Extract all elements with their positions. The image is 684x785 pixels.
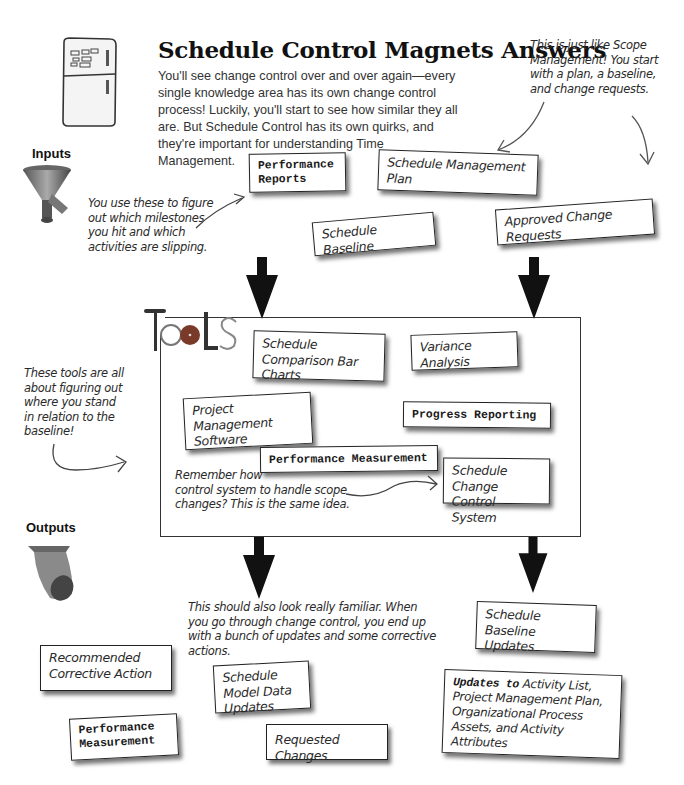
outputs-note: This should also look really familiar. W… <box>188 600 436 658</box>
magnet-project-management-software[interactable]: Project Management Software <box>183 392 314 451</box>
outputs-label: Outputs <box>26 520 76 535</box>
magnet-performance-measurement-output[interactable]: Performance Measurement <box>69 713 179 761</box>
scope-management-note: This is just like Scope Management! You … <box>530 38 678 96</box>
magnet-variance-analysis[interactable]: Variance Analysis <box>410 331 518 371</box>
magnet-schedule-comparison-bar-charts[interactable]: Schedule Comparison Bar Charts <box>252 330 385 381</box>
magnet-approved-change-requests[interactable]: Approved Change Requests <box>495 199 655 246</box>
change-control-note: Remember how control system to handle sc… <box>175 468 355 512</box>
refrigerator-magnets-icon <box>58 36 120 128</box>
arrow-down-icon <box>517 537 549 593</box>
magnet-updates-to[interactable]: Updates to Activity List, Project Manage… <box>442 669 623 759</box>
magnet-recommended-corrective-action[interactable]: Recommended Corrective Action <box>40 645 172 691</box>
tools-logo-icon: Tools <box>142 306 242 354</box>
magnet-schedule-baseline-updates[interactable]: Schedule Baseline Updates <box>475 601 597 653</box>
magnet-schedule-model-data-updates[interactable]: Schedule Model Data Updates <box>213 661 311 714</box>
pipe-elbow-icon <box>22 538 78 602</box>
arrow-down-icon <box>243 537 275 599</box>
curved-arrow-icon <box>342 474 442 500</box>
magnet-requested-changes[interactable]: Requested Changes <box>266 724 388 760</box>
curved-arrow-icon <box>46 440 132 480</box>
curved-arrow-icon <box>490 90 670 180</box>
magnet-schedule-baseline[interactable]: Schedule Baseline <box>312 212 436 257</box>
arrow-down-icon <box>518 257 550 319</box>
tools-note: These tools are all about figuring out w… <box>24 366 124 439</box>
magnet-performance-reports[interactable]: Performance Reports <box>249 152 347 192</box>
inputs-label: Inputs <box>32 146 71 161</box>
magnet-schedule-change-control-system[interactable]: Schedule Change Control System <box>443 458 550 505</box>
curved-arrow-icon <box>192 190 250 232</box>
funnel-icon <box>22 164 78 226</box>
magnet-progress-reporting[interactable]: Progress Reporting <box>403 401 551 428</box>
arrow-down-icon <box>246 257 278 319</box>
